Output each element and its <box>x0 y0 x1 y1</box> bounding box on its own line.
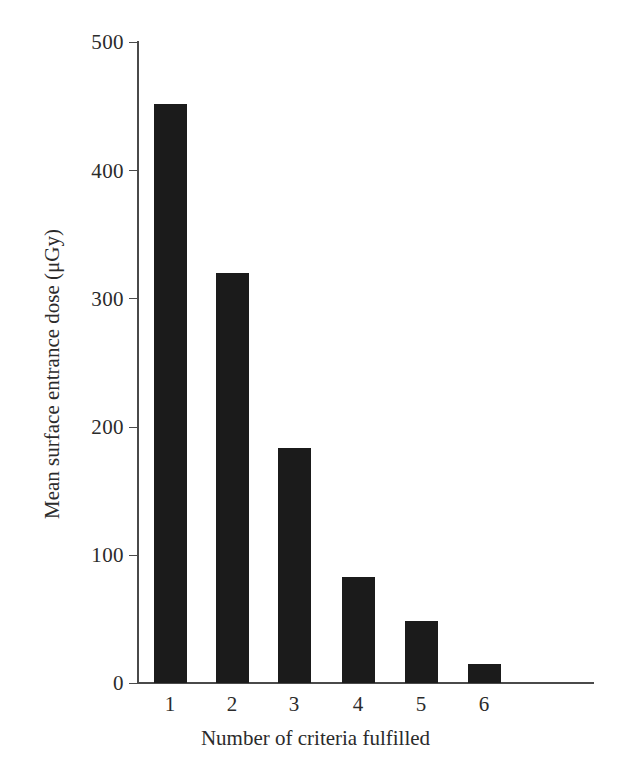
x-axis-tick-labels: 1 2 3 4 5 6 <box>0 0 631 777</box>
bar-chart-figure: Mean surface entrance dose (μGy) 500 400… <box>0 0 631 777</box>
x-tick-label-5: 5 <box>401 692 441 716</box>
x-axis-title: Number of criteria fulfilled <box>0 726 631 750</box>
x-tick-label-1: 1 <box>150 692 190 716</box>
x-tick-label-4: 4 <box>338 692 378 716</box>
x-tick-label-6: 6 <box>464 692 504 716</box>
x-tick-label-3: 3 <box>274 692 314 716</box>
x-tick-label-2: 2 <box>212 692 252 716</box>
